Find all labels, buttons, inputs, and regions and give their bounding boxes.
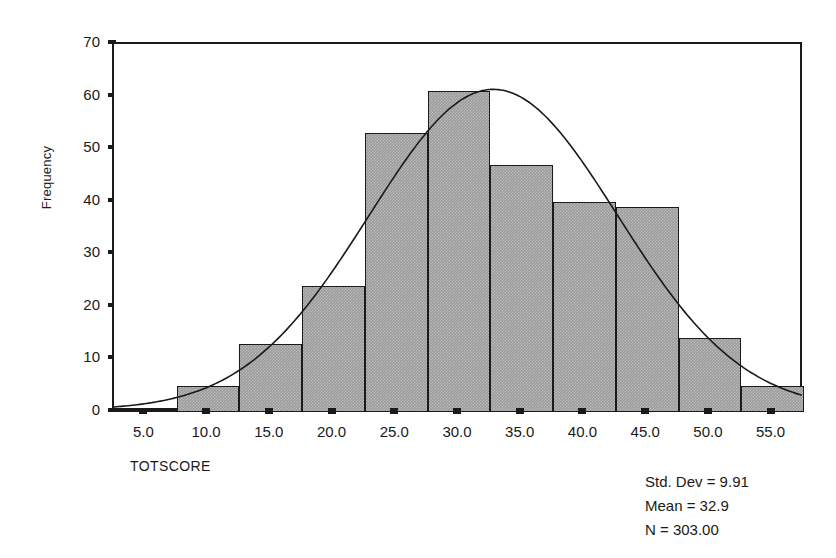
x-tick-mark <box>578 408 586 414</box>
std-dev-text: Std. Dev = 9.91 <box>645 470 749 494</box>
histogram-bar <box>553 202 616 412</box>
x-tick-label: 25.0 <box>364 424 424 439</box>
y-tick-label: 0 <box>54 402 100 417</box>
x-tick-label: 40.0 <box>552 424 612 439</box>
x-tick-label: 15.0 <box>239 424 299 439</box>
histogram-bar <box>365 133 428 412</box>
x-tick-label: 30.0 <box>427 424 487 439</box>
x-tick-label: 20.0 <box>302 424 362 439</box>
x-tick-mark <box>767 408 775 414</box>
x-tick-mark <box>265 408 273 414</box>
x-tick-label: 50.0 <box>678 424 738 439</box>
y-tick-label: 50 <box>54 139 100 154</box>
statistics-annotation: Std. Dev = 9.91 Mean = 32.9 N = 303.00 <box>645 470 749 542</box>
x-tick-label: 35.0 <box>490 424 550 439</box>
y-tick-label: 20 <box>54 297 100 312</box>
x-tick-mark <box>390 408 398 414</box>
histogram-bar <box>428 91 491 412</box>
histogram-bar <box>302 286 365 412</box>
mean-text: Mean = 32.9 <box>645 494 749 518</box>
y-tick-label: 10 <box>54 349 100 364</box>
x-tick-mark <box>328 408 336 414</box>
x-tick-mark <box>704 408 712 414</box>
x-tick-label: 45.0 <box>615 424 675 439</box>
histogram-figure: Frequency 010203040506070 5.010.015.020.… <box>0 0 836 558</box>
x-tick-label: 55.0 <box>741 424 801 439</box>
x-tick-mark <box>516 408 524 414</box>
y-tick-label: 30 <box>54 244 100 259</box>
x-tick-label: 10.0 <box>176 424 236 439</box>
histogram-bar <box>239 344 302 412</box>
x-tick-label: 5.0 <box>113 424 173 439</box>
n-text: N = 303.00 <box>645 518 749 542</box>
y-tick-label: 60 <box>54 87 100 102</box>
x-tick-mark <box>641 408 649 414</box>
histogram-bar <box>616 207 679 412</box>
x-tick-mark <box>202 408 210 414</box>
x-axis-title: TOTSCORE <box>130 458 211 474</box>
y-axis-title: Frequency <box>39 113 54 243</box>
histogram-bar <box>679 338 742 412</box>
x-tick-mark <box>139 408 147 414</box>
y-tick-label: 70 <box>54 34 100 49</box>
histogram-bar <box>490 165 553 412</box>
x-tick-mark <box>453 408 461 414</box>
plot-area <box>112 42 802 410</box>
y-tick-label: 40 <box>54 192 100 207</box>
